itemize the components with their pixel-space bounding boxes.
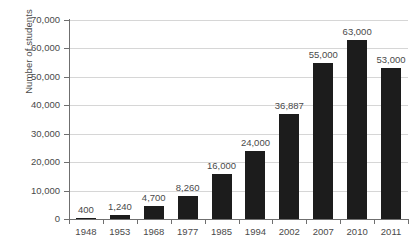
y-axis-tick-label: 70,000 [14,14,60,25]
x-axis-tick-label: 2007 [313,226,334,237]
y-axis-tick-label: 10,000 [14,185,60,196]
x-axis-tick [374,219,375,224]
y-axis-tick [64,77,69,78]
y-axis-tick-label: 30,000 [14,128,60,139]
y-axis-tick [64,162,69,163]
bar-value-label: 36,887 [275,100,304,111]
bar-value-label: 16,000 [207,160,236,171]
bar [144,206,164,219]
bar [313,63,333,219]
bar [110,215,130,219]
y-axis-tick-label: 50,000 [14,71,60,82]
x-axis-tick [239,219,240,224]
bar-value-label: 1,240 [108,201,132,212]
bar-value-label: 53,000 [377,54,406,65]
bar [212,174,232,219]
x-axis-tick-label: 2010 [347,226,368,237]
x-axis-tick-label: 1948 [75,226,96,237]
x-axis-tick [340,219,341,224]
y-axis-tick [64,20,69,21]
x-axis-tick-label: 1985 [211,226,232,237]
y-axis-tick-labels: 010,00020,00030,00040,00050,00060,00070,… [14,0,60,252]
x-axis-tick [103,219,104,224]
x-axis-tick [272,219,273,224]
y-axis-tick [64,48,69,49]
bar-value-label: 63,000 [343,26,372,37]
x-axis-tick-label: 1953 [109,226,130,237]
x-axis-tick-label: 1968 [143,226,164,237]
bar [347,40,367,219]
bar [245,151,265,219]
x-axis-tick [137,219,138,224]
x-axis-tick [306,219,307,224]
x-axis-tick [69,219,70,224]
bar-value-label: 400 [78,204,94,215]
y-axis-tick-label: 20,000 [14,156,60,167]
y-axis-tick [64,105,69,106]
y-axis-tick [64,134,69,135]
x-axis-tick [408,219,409,224]
bar-value-label: 55,000 [309,49,338,60]
y-axis-tick-label: 0 [14,213,60,224]
x-axis-tick [205,219,206,224]
x-axis-tick-label: 2011 [381,226,401,237]
y-axis-tick-label: 60,000 [14,42,60,53]
x-axis-tick-label: 1977 [177,226,198,237]
bar-value-label: 24,000 [241,137,270,148]
y-axis-tick [64,191,69,192]
bar [76,218,96,220]
bar-value-label: 8,260 [176,182,200,193]
x-axis-tick-label: 1994 [245,226,266,237]
x-axis-tick [171,219,172,224]
bar-chart: Number of students 010,00020,00030,00040… [0,0,416,252]
y-axis-tick-label: 40,000 [14,99,60,110]
bar [279,114,299,219]
bar-value-label: 4,700 [142,192,166,203]
bar [381,68,401,219]
bars-layer [69,20,408,219]
x-axis-tick-label: 2002 [279,226,300,237]
bar [178,196,198,219]
